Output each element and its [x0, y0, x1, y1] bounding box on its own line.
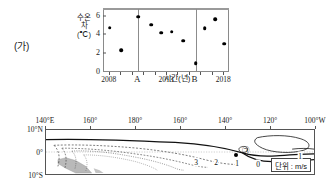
x-tick-mark — [200, 72, 201, 75]
x-tick-mark — [177, 72, 178, 75]
longitude-label: 100°W — [304, 116, 325, 125]
latitude-label: 0° — [36, 148, 43, 157]
longitude-label: 160° — [83, 116, 97, 125]
map-marker-dot — [234, 153, 238, 157]
longitude-label: 140° — [218, 116, 232, 125]
landmass-shape-2 — [94, 168, 104, 173]
chart-plot-area — [103, 8, 229, 72]
contour-one-dashed — [54, 145, 237, 164]
landmass-shape — [58, 158, 92, 173]
scatter-point — [181, 39, 185, 43]
x-tick-label: A — [134, 75, 141, 84]
y-tick-mark — [103, 53, 106, 54]
y-tick-label: 6 — [96, 12, 100, 20]
x-tick-label: 2008 — [101, 75, 116, 84]
scatter-point — [108, 26, 112, 30]
x-tick-mark — [223, 72, 224, 75]
contour-value-label: 1 — [298, 152, 303, 161]
panel-na: (나) 140°E160°180°160°140°120°100°W 10°N0… — [0, 96, 330, 187]
contour-value-label: 0 — [256, 160, 261, 169]
x-tick-mark — [212, 72, 213, 75]
contour-one-east-tail — [292, 148, 314, 149]
x-tick-mark — [109, 72, 110, 75]
scatter-point — [222, 42, 226, 46]
x-tick-mark — [143, 72, 144, 75]
longitude-label: 120° — [263, 116, 277, 125]
contour-zero-north — [46, 139, 314, 156]
panel-ga: (가) 수온 차 (℃) 0246 시간(년) 2008A2013B2018 — [0, 0, 330, 96]
x-tick-mark — [132, 72, 133, 75]
x-tick-mark — [166, 72, 167, 75]
scatter-point — [119, 49, 123, 53]
y-axis-tick-labels: 0246 — [88, 8, 102, 72]
contour-value-label: 3 — [194, 158, 199, 167]
scatter-point — [170, 30, 174, 34]
longitude-label: 180° — [128, 116, 142, 125]
y-tick-label: 4 — [96, 30, 100, 38]
x-tick-mark — [155, 72, 156, 75]
scatter-point — [137, 15, 141, 19]
scatter-point — [149, 23, 153, 27]
latitude-label: 10°N — [27, 125, 43, 134]
y-tick-label: 2 — [96, 49, 100, 57]
x-tick-mark — [189, 72, 190, 75]
latitude-axis: 10°N0°10°S — [8, 129, 43, 175]
y-tick-label: 0 — [96, 68, 100, 76]
x-tick-label: 2013 — [159, 75, 174, 84]
x-tick-mark — [120, 72, 121, 75]
longitude-tick — [315, 126, 316, 129]
contour-three-dotted — [72, 151, 184, 170]
scatter-point — [194, 61, 198, 65]
unit-legend: 단위 : m/s — [271, 158, 311, 172]
x-tick-label: 2018 — [216, 75, 231, 84]
panel-ga-tag: (가) — [14, 38, 29, 53]
y-tick-mark — [103, 34, 106, 35]
y-tick-mark — [103, 15, 106, 16]
contour-one-closed-east — [255, 136, 309, 153]
contour-core-dotted — [84, 155, 157, 170]
contour-value-label: 2 — [214, 158, 219, 167]
scatter-point — [159, 31, 163, 35]
scatter-point — [203, 26, 207, 30]
scatter-point — [213, 18, 217, 22]
longitude-label: 160° — [173, 116, 187, 125]
map-marker-label: ㉠ — [242, 144, 249, 155]
latitude-label: 10°S — [28, 171, 43, 180]
map-plot-area: 단위 : m/s — [45, 129, 315, 175]
x-tick-label: B — [192, 75, 198, 84]
contour-value-label: 1 — [235, 159, 240, 168]
